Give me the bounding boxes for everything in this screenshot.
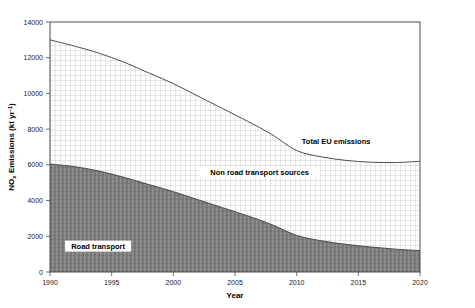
x-axis-ticks: 1990199520002005201020152020 [42, 272, 428, 286]
x-tick-label: 1995 [104, 279, 120, 286]
annotation-label-non-road-transport-sources: Non road transport sources [210, 168, 309, 177]
y-tick-label: 2000 [27, 233, 43, 240]
x-tick-label: 2010 [289, 279, 305, 286]
y-axis-ticks: 02000400060008000100001200014000 [24, 19, 50, 276]
annotation-label-total-eu-emissions: Total EU emissions [302, 137, 371, 146]
y-axis-title-post: ) [7, 103, 16, 106]
x-tick-label: 2005 [227, 279, 243, 286]
y-tick-label: 10000 [24, 90, 44, 97]
y-axis-title-mid: Emissions (kt yr [7, 111, 16, 175]
x-tick-label: 1990 [42, 279, 58, 286]
x-axis-title: Year [227, 291, 244, 300]
y-tick-label: 12000 [24, 54, 44, 61]
nox-emissions-stacked-area-chart: 02000400060008000100001200014000 1990199… [0, 0, 475, 308]
x-tick-label: 2020 [412, 279, 428, 286]
y-tick-label: 0 [39, 269, 43, 276]
x-tick-label: 2015 [351, 279, 367, 286]
y-tick-label: 4000 [27, 197, 43, 204]
annotation-label-road-transport: Road transport [71, 242, 125, 251]
chart-figure: 02000400060008000100001200014000 1990199… [0, 0, 475, 308]
y-tick-label: 6000 [27, 161, 43, 168]
y-axis-title: NOx Emissions (kt yr-1) [7, 103, 17, 191]
y-axis-title-pre: NO [7, 179, 16, 191]
y-tick-label: 8000 [27, 126, 43, 133]
y-tick-label: 14000 [24, 19, 44, 26]
x-tick-label: 2000 [166, 279, 182, 286]
